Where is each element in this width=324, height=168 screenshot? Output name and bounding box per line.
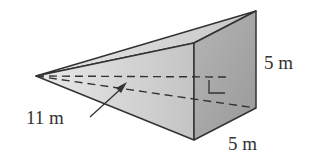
pyramid-diagram: 11 m 5 m 5 m [0,0,324,168]
base-width-label: 5 m [228,133,257,154]
slant-height-label: 11 m [26,107,64,128]
base-height-label: 5 m [264,52,293,73]
height-line [36,76,226,77]
